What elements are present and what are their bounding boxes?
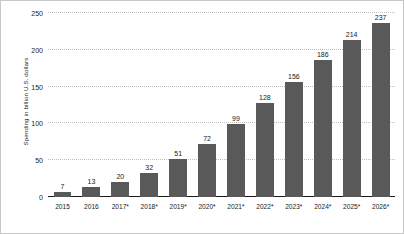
bar-group: 722020* xyxy=(193,13,222,197)
bar-group: 992021* xyxy=(222,13,251,197)
x-axis-tick-label: 2015 xyxy=(48,203,77,210)
bar[interactable] xyxy=(314,60,332,197)
bar-group: 72015 xyxy=(48,13,77,197)
x-axis-tick-label: 2019* xyxy=(164,203,193,210)
bar[interactable] xyxy=(227,124,245,197)
bar-group: 1282022* xyxy=(250,13,279,197)
bar-group: 1862024* xyxy=(308,13,337,197)
y-axis-tick-label: 100 xyxy=(31,120,43,127)
bar-value-label: 20 xyxy=(106,173,135,180)
bar-value-label: 32 xyxy=(135,164,164,171)
x-axis-tick-label: 2024* xyxy=(308,203,337,210)
bar-value-label: 128 xyxy=(250,94,279,101)
bar-series: 72015132016202017*322018*512019*722020*9… xyxy=(48,13,395,197)
y-axis-tick-label: 250 xyxy=(31,10,43,17)
bar-value-label: 72 xyxy=(193,135,222,142)
bar[interactable] xyxy=(169,159,187,197)
bar[interactable] xyxy=(256,103,274,197)
bar-value-label: 7 xyxy=(48,183,77,190)
y-axis-tick-label: 150 xyxy=(31,83,43,90)
bar-group: 2372026* xyxy=(366,13,395,197)
y-axis-title: Spending in billion U.S. dollars xyxy=(19,14,33,189)
bar-group: 2142025* xyxy=(337,13,366,197)
y-axis-tick-label: 0 xyxy=(39,194,43,201)
bar-value-label: 214 xyxy=(337,31,366,38)
bar-value-label: 186 xyxy=(308,51,337,58)
x-axis-tick-label: 2018* xyxy=(135,203,164,210)
bar[interactable] xyxy=(285,82,303,197)
bar-value-label: 237 xyxy=(366,14,395,21)
bar-group: 512019* xyxy=(164,13,193,197)
bar[interactable] xyxy=(343,40,361,198)
bar[interactable] xyxy=(111,182,129,197)
x-axis-tick-label: 2022* xyxy=(250,203,279,210)
y-axis-tick-label: 50 xyxy=(35,157,43,164)
x-axis-tick-label: 2017* xyxy=(106,203,135,210)
bar-chart-figure: Spending in billion U.S. dollars 2502001… xyxy=(0,0,404,234)
bar[interactable] xyxy=(82,187,100,197)
bar[interactable] xyxy=(372,23,390,197)
bar-group: 322018* xyxy=(135,13,164,197)
bar-group: 132016 xyxy=(77,13,106,197)
bar-group: 1562023* xyxy=(279,13,308,197)
x-axis-tick-label: 2026* xyxy=(366,203,395,210)
bar-group: 202017* xyxy=(106,13,135,197)
bar-value-label: 156 xyxy=(279,73,308,80)
x-axis-tick-label: 2023* xyxy=(279,203,308,210)
y-axis-tick-label: 200 xyxy=(31,46,43,53)
bar-value-label: 13 xyxy=(77,178,106,185)
bar-value-label: 99 xyxy=(222,115,251,122)
x-axis-tick-label: 2016 xyxy=(77,203,106,210)
bar[interactable] xyxy=(198,144,216,197)
plot-area: 250200150100500 72015132016202017*322018… xyxy=(48,13,395,197)
bar[interactable] xyxy=(54,192,72,197)
bar[interactable] xyxy=(140,173,158,197)
bar-value-label: 51 xyxy=(164,150,193,157)
x-axis-tick-label: 2025* xyxy=(337,203,366,210)
x-axis-tick-label: 2020* xyxy=(193,203,222,210)
x-axis-tick-label: 2021* xyxy=(222,203,251,210)
